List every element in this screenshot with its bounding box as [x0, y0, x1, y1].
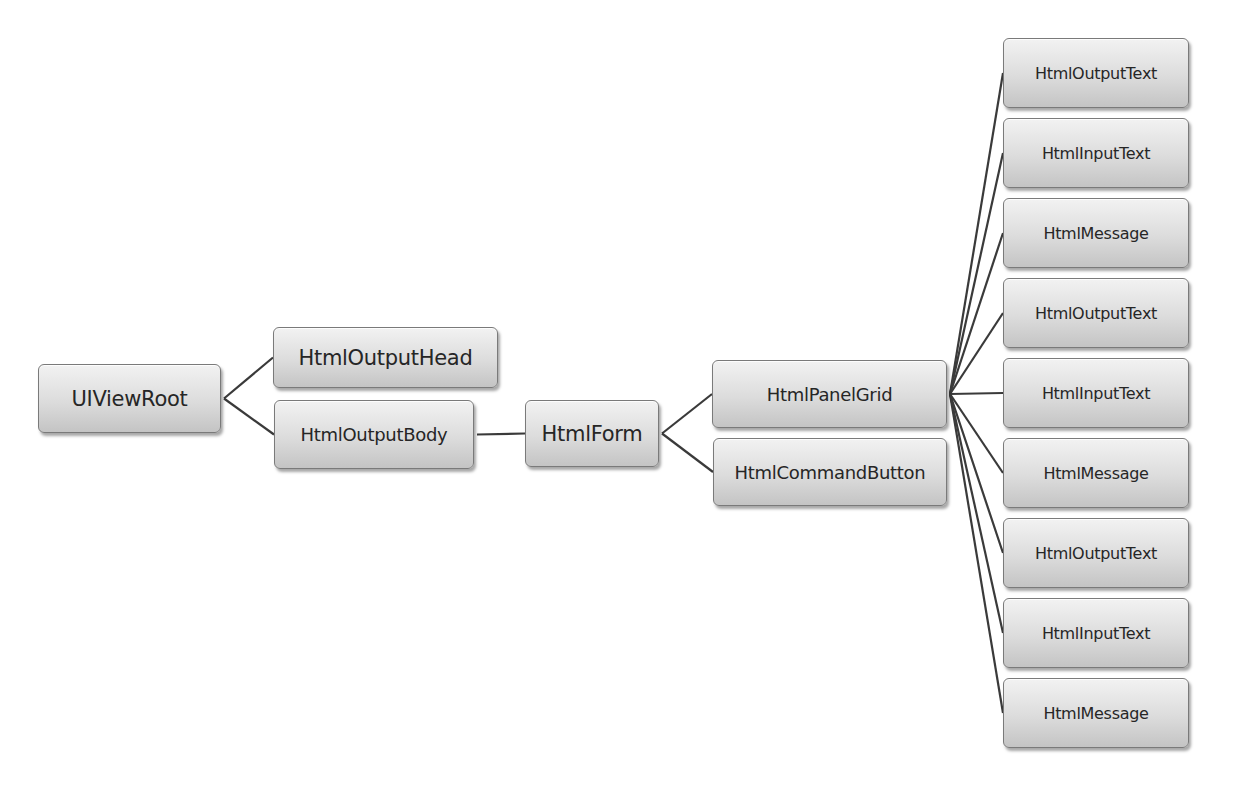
node-grid-child-htmloutputtext: HtmlOutputText [1003, 518, 1189, 588]
connector-line [224, 399, 274, 435]
node-grid-child-htmloutputtext: HtmlOutputText [1003, 38, 1189, 108]
node-label: HtmlOutputText [1035, 304, 1157, 323]
connector-line [950, 73, 1003, 394]
connector-line [950, 233, 1003, 394]
connector-line [477, 434, 525, 435]
connector-line [662, 434, 713, 473]
node-htmlform: HtmlForm [525, 400, 659, 467]
node-label: HtmlInputText [1042, 624, 1150, 643]
node-label: HtmlForm [542, 422, 643, 446]
connector-line [950, 394, 1003, 553]
connector-line [662, 394, 712, 434]
connector-line [224, 358, 273, 399]
node-grid-child-htmlmessage: HtmlMessage [1003, 678, 1189, 748]
node-uiviewroot: UIViewRoot [38, 364, 221, 433]
node-grid-child-htmlmessage: HtmlMessage [1003, 438, 1189, 508]
node-label: HtmlOutputText [1035, 64, 1157, 83]
node-label: HtmlMessage [1043, 464, 1148, 483]
node-label: HtmlOutputHead [299, 346, 473, 370]
connector-line [950, 393, 1003, 394]
node-label: HtmlCommandButton [735, 462, 926, 483]
node-label: HtmlOutputText [1035, 544, 1157, 563]
node-grid-child-htmlinputtext: HtmlInputText [1003, 118, 1189, 188]
node-grid-child-htmlinputtext: HtmlInputText [1003, 598, 1189, 668]
node-label: HtmlMessage [1043, 704, 1148, 723]
node-label: HtmlOutputBody [301, 424, 448, 445]
node-grid-child-htmlmessage: HtmlMessage [1003, 198, 1189, 268]
connector-line [950, 394, 1003, 713]
node-htmloutputbody: HtmlOutputBody [274, 400, 474, 469]
node-label: UIViewRoot [72, 387, 188, 411]
node-label: HtmlMessage [1043, 224, 1148, 243]
connector-line [950, 394, 1003, 633]
node-grid-child-htmlinputtext: HtmlInputText [1003, 358, 1189, 428]
component-tree-diagram: UIViewRoot HtmlOutputHead HtmlOutputBody… [0, 0, 1234, 794]
node-htmloutputhead: HtmlOutputHead [273, 327, 498, 388]
node-label: HtmlInputText [1042, 384, 1150, 403]
node-label: HtmlPanelGrid [767, 384, 893, 405]
connector-line [950, 153, 1003, 394]
node-label: HtmlInputText [1042, 144, 1150, 163]
node-htmlcommandbutton: HtmlCommandButton [713, 438, 947, 506]
node-htmlpanelgrid: HtmlPanelGrid [712, 360, 947, 428]
node-grid-child-htmloutputtext: HtmlOutputText [1003, 278, 1189, 348]
